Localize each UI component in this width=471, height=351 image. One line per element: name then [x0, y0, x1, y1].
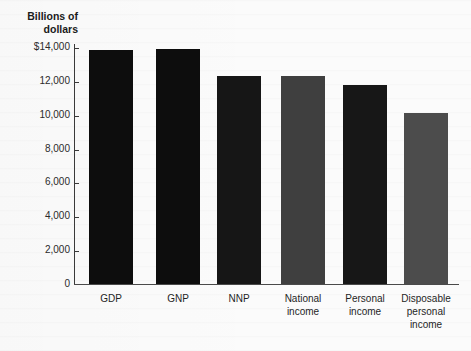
x-axis-category-label: GNP	[146, 292, 210, 305]
bar-chart-figure: Billions of dollars $14,00012,00010,0008…	[0, 0, 471, 351]
bar	[156, 49, 200, 284]
bar	[89, 50, 133, 285]
x-axis-category-label: Personal income	[333, 292, 397, 318]
x-axis-category-label: GDP	[79, 292, 143, 305]
x-axis-category-label: National income	[271, 292, 335, 318]
bar	[404, 113, 448, 285]
x-axis-category-label: NNP	[207, 292, 271, 305]
bar	[281, 76, 325, 284]
x-axis-category-label: Disposable personal income	[394, 292, 458, 331]
bars-layer	[0, 0, 471, 285]
bar	[343, 85, 387, 285]
bar	[217, 76, 261, 284]
